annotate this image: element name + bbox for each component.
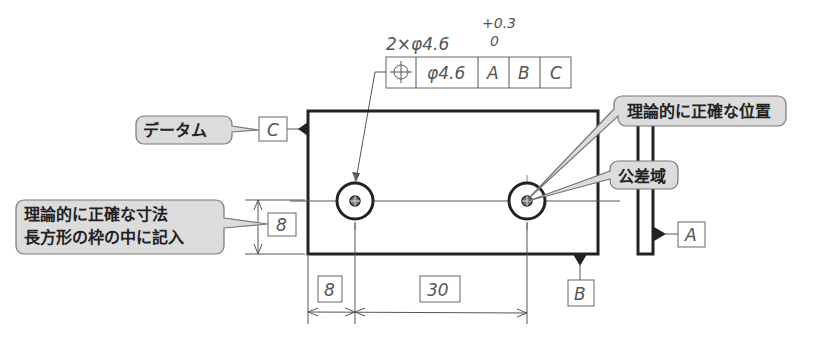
tolerance-lower: 0 xyxy=(490,33,499,49)
leader-arrow-icon xyxy=(352,172,360,182)
callout-datum: データム xyxy=(136,116,259,144)
svg-text:長方形の枠の中に記入: 長方形の枠の中に記入 xyxy=(24,228,184,247)
datum-ref-a: A xyxy=(486,63,499,83)
feature-control-frame: φ4.6 A B C xyxy=(386,57,571,88)
horizontal-dim-left-value: 8 xyxy=(324,280,335,300)
datum-a-label: A xyxy=(684,225,697,245)
datum-c-label: C xyxy=(267,120,279,140)
datum-c-triangle-icon xyxy=(298,122,308,136)
drawing-canvas: 2×φ4.6 +0.3 0 φ4.6 A B C xyxy=(0,0,825,339)
svg-text:公差域: 公差域 xyxy=(618,167,666,186)
tolerance-value: φ4.6 xyxy=(427,63,465,83)
datum-ref-c: C xyxy=(550,63,562,83)
horizontal-dim-line xyxy=(308,312,527,313)
leader-line xyxy=(356,72,386,180)
svg-text:データム: データム xyxy=(143,121,207,140)
horizontal-dim-spacing-value: 30 xyxy=(427,280,449,300)
datum-ref-b: B xyxy=(518,63,530,83)
vertical-dim-value: 8 xyxy=(276,215,287,235)
quantity-label: 2×φ4.6 xyxy=(386,34,449,54)
callout-basic-dimension: 理論的に正確な寸法 長方形の枠の中に記入 xyxy=(16,200,268,254)
svg-text:理論的に正確な寸法: 理論的に正確な寸法 xyxy=(24,205,168,224)
left-hole xyxy=(337,183,373,219)
tolerance-upper: +0.3 xyxy=(482,15,516,31)
callout-tolerance-zone: 公差域 xyxy=(528,161,678,201)
svg-text:理論的に正確な位置: 理論的に正確な位置 xyxy=(627,102,771,121)
datum-b-label: B xyxy=(574,284,586,304)
